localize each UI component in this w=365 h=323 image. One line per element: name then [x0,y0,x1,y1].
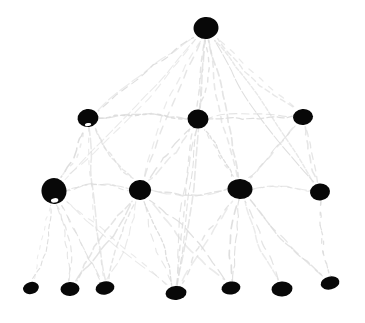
graph-edge [250,200,322,276]
graph-edge [252,185,310,192]
graph-edge [218,39,295,108]
graph-node[interactable] [292,108,313,126]
graph-node[interactable] [319,275,340,292]
graph-node[interactable] [271,281,293,297]
graph-node[interactable] [187,109,209,129]
graph-edge [151,189,229,196]
graph-edge [144,202,173,286]
graph-edge [209,40,239,178]
graph-edge [65,40,195,180]
graph-edge [98,113,188,119]
graph-node[interactable] [165,285,187,301]
graph-edge [61,129,83,177]
graph-node[interactable] [192,16,219,40]
node-ellipse [309,183,331,202]
node-ellipse [292,108,313,126]
graph-node[interactable] [76,108,99,129]
graph-node[interactable] [128,179,151,200]
graph-node[interactable] [221,280,242,296]
graph-edge [107,202,136,280]
node-ellipse [60,282,80,297]
graph-canvas [0,0,365,323]
graph-edge [96,128,134,178]
graph-node[interactable] [227,179,253,200]
node-ellipse [227,179,253,200]
graph-edge [320,201,330,277]
node-graph-figure [0,0,365,323]
graph-node[interactable] [60,282,80,297]
node-ellipse [271,281,293,297]
graph-edge [144,41,201,179]
node-ellipse [22,280,40,296]
graph-edge [229,200,239,282]
graph-edge [150,200,225,280]
node-ellipse [221,280,242,296]
node-ellipse [319,275,340,292]
graph-edge [98,38,194,112]
edge-layer [32,38,331,286]
graph-edge [76,201,132,281]
graph-edge [56,205,71,281]
graph-node[interactable] [22,280,40,296]
graph-node[interactable] [95,280,116,296]
graph-edge [148,129,189,180]
node-ellipse [192,16,219,40]
graph-edge [32,205,52,281]
node-ellipse [187,109,209,129]
node-ellipse [165,285,187,301]
node-ellipse [128,179,151,200]
graph-edge [205,130,234,176]
graph-node[interactable] [39,176,68,206]
graph-edge [181,201,232,283]
graph-edge [66,184,130,191]
node-ellipse [95,280,116,296]
graph-node[interactable] [309,183,331,202]
